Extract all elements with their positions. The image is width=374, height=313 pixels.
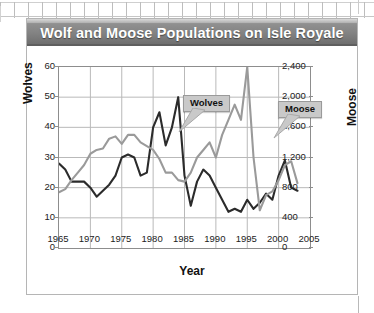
y-tickmark-left-40 bbox=[54, 126, 58, 127]
y-tickmark-right-0 bbox=[309, 247, 313, 248]
y-tickmark-left-60 bbox=[54, 66, 58, 67]
x-tick-1975: 1975 bbox=[104, 234, 138, 244]
y-tickmark-left-0 bbox=[54, 247, 58, 248]
y-tickmark-left-30 bbox=[54, 157, 58, 158]
y-tick-left-40: 40 bbox=[25, 121, 55, 131]
x-tick-1995: 1995 bbox=[229, 234, 263, 244]
y-tickmark-right-2000 bbox=[309, 96, 313, 97]
plot-wrapper: Wolves Moose Year 0102030405060 04008001… bbox=[27, 48, 357, 294]
page-right-rule-top bbox=[358, 0, 359, 14]
series-line-moose bbox=[59, 67, 297, 210]
y-tickmark-right-400 bbox=[309, 217, 313, 218]
y-tickmark-right-2400 bbox=[309, 66, 313, 67]
series-lines bbox=[59, 67, 297, 212]
y-tick-left-50: 50 bbox=[25, 91, 55, 101]
x-tick-2000: 2000 bbox=[261, 234, 295, 244]
x-axis-label: Year bbox=[27, 264, 357, 278]
chart-card: Wolf and Moose Populations on Isle Royal… bbox=[26, 18, 358, 295]
y-tick-left-30: 30 bbox=[25, 152, 55, 162]
y-tickmark-right-800 bbox=[309, 187, 313, 188]
y-tickmark-right-1600 bbox=[309, 126, 313, 127]
y-tick-left-10: 10 bbox=[25, 212, 55, 222]
x-tick-1970: 1970 bbox=[72, 234, 106, 244]
y-tickmark-right-1200 bbox=[309, 157, 313, 158]
x-tick-2005: 2005 bbox=[292, 234, 326, 244]
fence-rail-bottom bbox=[0, 16, 374, 17]
plot-area bbox=[58, 66, 311, 249]
y-tickmark-left-20 bbox=[54, 187, 58, 188]
y-tickmark-left-10 bbox=[54, 217, 58, 218]
page-left-rule bbox=[0, 6, 1, 22]
x-tick-1990: 1990 bbox=[198, 234, 232, 244]
page-title: Wolf and Moose Populations on Isle Royal… bbox=[27, 19, 357, 46]
annotation-wolves-pointer bbox=[177, 108, 207, 134]
annotation-moose-pointer bbox=[272, 114, 302, 140]
x-tick-1985: 1985 bbox=[167, 234, 201, 244]
y-tick-left-60: 60 bbox=[25, 61, 55, 71]
y-tick-left-20: 20 bbox=[25, 182, 55, 192]
y-axis-right-label: Moose bbox=[345, 88, 359, 126]
top-decorative-fence bbox=[0, 0, 374, 20]
chart-title-bar: Wolf and Moose Populations on Isle Royal… bbox=[27, 19, 357, 46]
x-tick-1965: 1965 bbox=[41, 234, 75, 244]
page-right-rule-bottom bbox=[358, 296, 359, 313]
y-tickmark-left-50 bbox=[54, 96, 58, 97]
x-tick-1980: 1980 bbox=[135, 234, 169, 244]
